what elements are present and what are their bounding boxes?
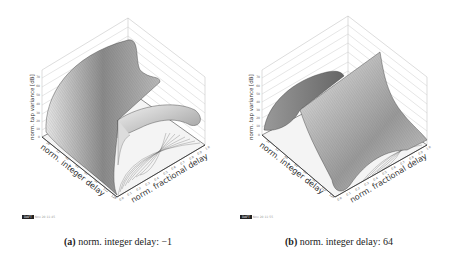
svg-text:40: 40: [36, 102, 40, 106]
svg-text:30: 30: [36, 111, 40, 115]
caption-value-a: −1: [161, 236, 172, 247]
svg-text:0.0: 0.0: [118, 196, 124, 202]
caption-text-a: norm. integer delay:: [78, 236, 159, 247]
svg-text:0.0: 0.0: [336, 196, 342, 202]
svg-text:20: 20: [256, 116, 260, 120]
svg-text:50: 50: [36, 93, 40, 97]
z-axis-label-a: norm. tap variance [dB]: [29, 74, 36, 140]
timestamp-stamp-b: DAFT Nov 20 11:55: [240, 215, 273, 219]
caption-value-b: 64: [383, 236, 393, 247]
svg-text:10: 10: [36, 127, 40, 131]
svg-text:10: 10: [256, 124, 260, 128]
caption-label-a: (a): [64, 236, 76, 247]
subfigure-a: 0 10 20 30 40 50 60 70 norm. tap varianc…: [0, 0, 225, 261]
svg-text:0: 0: [258, 133, 260, 137]
svg-text:70: 70: [256, 75, 260, 79]
timestamp-stamp-a: DAFT Nov 20 11:45: [22, 215, 55, 219]
subfigure-b: 0 10 20 30 40 50 60 70 norm. tap varianc…: [222, 0, 447, 261]
svg-text:20: 20: [36, 119, 40, 123]
svg-text:30: 30: [256, 108, 260, 112]
surface-plot-b: 0 10 20 30 40 50 60 70 norm. tap varianc…: [222, 0, 447, 205]
surface-plot-a: 0 10 20 30 40 50 60 70 norm. tap varianc…: [0, 0, 225, 205]
z-ticks-b: 0 10 20 30 40 50 60 70: [256, 75, 260, 137]
svg-text:70: 70: [36, 75, 40, 79]
caption-a: (a) norm. integer delay: −1: [64, 236, 172, 247]
caption-b: (b) norm. integer delay: 64: [285, 236, 393, 247]
svg-text:1.0: 1.0: [204, 145, 210, 151]
svg-text:1.0: 1.0: [425, 145, 431, 151]
svg-text:60: 60: [256, 84, 260, 88]
z-ticks-a: 0 10 20 30 40 50 60 70: [36, 75, 40, 139]
caption-label-b: (b): [285, 236, 297, 247]
caption-text-b: norm. integer delay:: [300, 236, 381, 247]
svg-text:60: 60: [36, 84, 40, 88]
svg-text:50: 50: [256, 92, 260, 96]
z-axis-label-b: norm. tap variance [dB]: [248, 74, 255, 140]
svg-text:40: 40: [256, 100, 260, 104]
svg-text:0: 0: [38, 135, 40, 139]
